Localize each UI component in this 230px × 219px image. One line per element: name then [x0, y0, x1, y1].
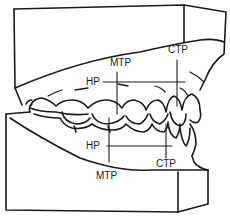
upper-cast-base: [14, 5, 226, 105]
lower-hp-label: HP: [86, 141, 100, 151]
upper-gumline: [48, 72, 204, 96]
lower-ctp-label: CTP: [156, 159, 176, 169]
dental-cast-diagram: MTP CTP HP HP CTP MTP: [0, 0, 230, 219]
dental-cast-drawing: [0, 0, 230, 219]
lower-teeth: [34, 114, 196, 156]
lower-cast-base: [6, 112, 208, 212]
upper-hp-label: HP: [86, 77, 100, 87]
upper-mtp-label: MTP: [110, 58, 131, 68]
lower-mtp-label: MTP: [96, 171, 117, 181]
upper-teeth: [26, 94, 201, 126]
upper-ctp-label: CTP: [168, 45, 188, 55]
